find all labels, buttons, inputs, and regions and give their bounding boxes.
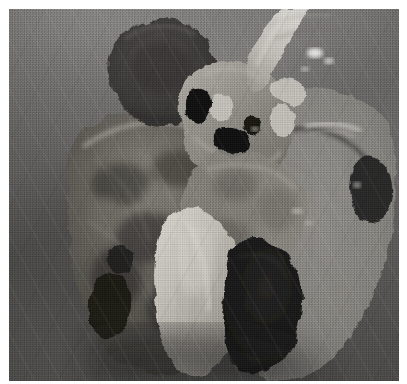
page-margin-right — [399, 0, 407, 384]
specimen-illustration — [9, 9, 399, 384]
page-root — [0, 0, 407, 384]
page-margin-left — [0, 0, 9, 384]
specimen-photograph — [9, 9, 399, 384]
page-margin-top — [0, 0, 407, 9]
